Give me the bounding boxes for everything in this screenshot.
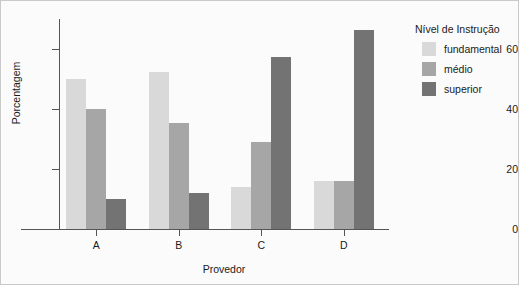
x-axis-line <box>21 229 389 230</box>
x-axis-tick-label: C <box>257 239 265 251</box>
legend-swatch <box>422 82 436 96</box>
y-axis-tick-label: 20 <box>472 163 518 175</box>
y-axis-title: Porcentagem <box>10 33 22 153</box>
x-axis-tick <box>96 230 97 236</box>
plot-area <box>59 19 389 229</box>
legend-label: fundamental <box>444 43 502 55</box>
bar <box>189 193 209 229</box>
bar <box>231 187 251 229</box>
legend-item: superior <box>415 82 515 96</box>
x-axis-tick <box>261 230 262 236</box>
legend-item: médio <box>415 62 515 76</box>
x-axis-tick <box>179 230 180 236</box>
bar <box>149 72 169 230</box>
y-axis-tick <box>52 229 59 230</box>
x-axis-title: Provedor <box>59 263 389 275</box>
x-axis-tick-label: B <box>175 239 182 251</box>
y-axis-tick <box>52 49 59 50</box>
bar <box>354 30 374 230</box>
x-axis-tick-label: D <box>340 239 348 251</box>
legend-label: médio <box>444 63 473 75</box>
x-axis-tick <box>344 230 345 236</box>
bar-group <box>314 19 374 229</box>
legend-item: fundamental <box>415 42 515 56</box>
bar <box>86 109 106 229</box>
bar <box>106 199 126 229</box>
x-axis-tick-label: A <box>93 239 100 251</box>
bar <box>169 123 189 230</box>
y-axis-tick <box>52 169 59 170</box>
bar-group <box>66 19 126 229</box>
legend-swatch <box>422 62 436 76</box>
bar-group <box>149 19 209 229</box>
legend-swatch <box>422 42 436 56</box>
bar-chart-figure: 0204060 ABCD Provedor Porcentagem Nível … <box>0 0 519 285</box>
legend-items: fundamentalmédiosuperior <box>415 42 515 96</box>
bar <box>314 181 334 229</box>
y-axis-tick-label: 0 <box>472 223 518 235</box>
legend-title: Nível de Instrução <box>415 23 515 35</box>
y-axis-tick-label: 40 <box>472 103 518 115</box>
bar <box>271 57 291 230</box>
bar <box>334 181 354 229</box>
legend: Nível de Instrução fundamentalmédiosuper… <box>415 23 515 102</box>
bar <box>251 142 271 229</box>
y-axis-tick <box>52 109 59 110</box>
legend-label: superior <box>444 83 482 95</box>
bar <box>66 79 86 229</box>
bar-group <box>231 19 291 229</box>
